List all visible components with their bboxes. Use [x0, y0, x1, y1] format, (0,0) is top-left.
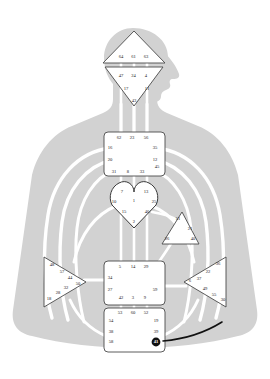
- gate-30[interactable]: 30: [221, 297, 226, 302]
- gate-18[interactable]: 18: [47, 296, 52, 301]
- gate-15[interactable]: 15: [122, 209, 127, 214]
- gate-64[interactable]: 64: [119, 54, 124, 59]
- gate-39[interactable]: 39: [154, 329, 159, 334]
- gate-29[interactable]: 29: [144, 264, 149, 269]
- gate-36[interactable]: 36: [216, 261, 221, 266]
- gate-62[interactable]: 62: [117, 135, 122, 140]
- gate-50[interactable]: 50: [76, 281, 81, 286]
- gate-24[interactable]: 24: [131, 73, 136, 78]
- gate-27[interactable]: 27: [108, 287, 113, 292]
- gate-12[interactable]: 12: [153, 157, 158, 162]
- gate-49[interactable]: 49: [203, 286, 208, 291]
- gate-63[interactable]: 63: [144, 54, 149, 59]
- gate-10[interactable]: 10: [112, 199, 117, 204]
- gate-51[interactable]: 51: [176, 216, 181, 221]
- gate-35[interactable]: 35: [153, 145, 158, 150]
- gate-60[interactable]: 60: [131, 310, 136, 315]
- gate-14[interactable]: 14: [131, 264, 136, 269]
- gate-37[interactable]: 37: [197, 276, 202, 281]
- bodygraph-svg: 6461634724417114362235616352012453183371…: [0, 0, 270, 379]
- gate-13[interactable]: 13: [144, 189, 149, 194]
- gate-57[interactable]: 57: [60, 269, 65, 274]
- gate-41[interactable]: 41: [154, 339, 159, 344]
- gate-61[interactable]: 61: [131, 54, 136, 59]
- gate-11[interactable]: 11: [145, 86, 150, 91]
- gate-31[interactable]: 31: [112, 169, 117, 174]
- gate-55[interactable]: 55: [212, 292, 217, 297]
- bodygraph-canvas: 6461634724417114362235616352012453183371…: [0, 0, 270, 379]
- gate-23[interactable]: 23: [130, 135, 135, 140]
- gate-40[interactable]: 40: [191, 236, 196, 241]
- gate-20[interactable]: 20: [108, 157, 113, 162]
- gate-19[interactable]: 19: [154, 318, 159, 323]
- gate-28[interactable]: 28: [56, 290, 61, 295]
- gate-58[interactable]: 58: [109, 339, 114, 344]
- gate-17[interactable]: 17: [124, 86, 129, 91]
- gate-33[interactable]: 33: [140, 169, 145, 174]
- gate-52[interactable]: 52: [144, 310, 149, 315]
- gate-34[interactable]: 34: [108, 275, 113, 280]
- gate-32[interactable]: 32: [64, 285, 69, 290]
- gate-46[interactable]: 46: [145, 209, 150, 214]
- gate-22[interactable]: 22: [206, 269, 211, 274]
- gate-26[interactable]: 26: [165, 236, 170, 241]
- gate-43[interactable]: 43: [132, 98, 137, 103]
- gate-16[interactable]: 16: [108, 145, 113, 150]
- gates-head: 646163: [119, 54, 149, 59]
- gate-44[interactable]: 44: [68, 275, 73, 280]
- gate-25[interactable]: 25: [152, 199, 157, 204]
- gate-21[interactable]: 21: [188, 226, 193, 231]
- gate-38[interactable]: 38: [109, 329, 114, 334]
- gate-47[interactable]: 47: [119, 73, 124, 78]
- gate-48[interactable]: 48: [50, 262, 55, 267]
- gate-59[interactable]: 59: [153, 287, 158, 292]
- gate-56[interactable]: 56: [144, 135, 149, 140]
- gate-54[interactable]: 54: [109, 318, 114, 323]
- gate-42[interactable]: 42: [119, 295, 124, 300]
- gate-53[interactable]: 53: [118, 310, 123, 315]
- gate-45[interactable]: 45: [155, 164, 160, 169]
